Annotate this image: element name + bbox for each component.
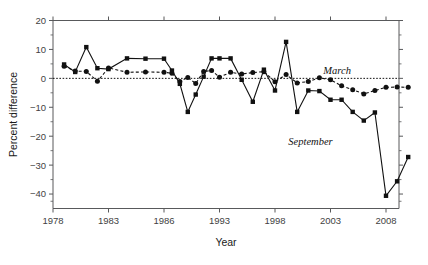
data-point (361, 91, 366, 96)
data-point (251, 100, 255, 104)
data-point (143, 69, 148, 74)
data-point (372, 88, 377, 93)
data-point (284, 40, 288, 44)
data-point (384, 85, 389, 90)
data-point (228, 56, 232, 60)
y-axis-ticks (49, 21, 403, 202)
series-label-march: March (322, 65, 351, 76)
data-point (125, 70, 130, 75)
data-point (395, 85, 400, 90)
y-tick-label: −30 (30, 160, 46, 171)
x-tick-labels: 1978198319861993199820032008 (42, 215, 396, 226)
y-tick-label: 0 (41, 73, 46, 84)
data-point (162, 70, 167, 75)
data-point (162, 56, 166, 60)
data-point (106, 67, 110, 71)
data-point (406, 85, 411, 90)
data-point (217, 75, 222, 80)
data-point (143, 56, 147, 60)
data-point (193, 81, 198, 86)
data-point (328, 77, 333, 82)
data-point (240, 78, 244, 82)
x-tick-label: 2003 (320, 215, 341, 226)
data-point (62, 62, 66, 66)
data-point (339, 83, 344, 88)
y-tick-label: −20 (30, 131, 46, 142)
data-point (125, 56, 129, 60)
data-point (84, 45, 88, 49)
chart-figure: 20100−10−20−30−40 1978198319861993199820… (0, 0, 428, 265)
x-tick-label: 1993 (209, 215, 230, 226)
data-point (170, 68, 174, 72)
y-tick-label: 10 (35, 44, 46, 55)
data-point (328, 98, 332, 102)
data-point (384, 194, 388, 198)
x-tick-label: 1986 (153, 215, 174, 226)
data-point (186, 110, 190, 114)
x-tick-label: 1998 (264, 215, 285, 226)
data-point (194, 92, 198, 96)
data-point (339, 98, 343, 102)
data-point (295, 80, 300, 85)
data-point (306, 88, 310, 92)
data-point (306, 79, 311, 84)
chart-plot-area: 20100−10−20−30−40 1978198319861993199820… (0, 0, 428, 265)
y-tick-label: −10 (30, 102, 46, 113)
series-label-september: September (288, 136, 333, 147)
data-point (95, 66, 99, 70)
data-point (317, 89, 321, 93)
data-point (209, 56, 213, 60)
x-axis-title: Year (215, 236, 237, 248)
data-point (209, 68, 214, 73)
y-axis-title: Percent difference (7, 72, 19, 157)
data-point (201, 74, 205, 78)
data-point (185, 75, 190, 80)
data-point (228, 70, 233, 75)
data-point (395, 179, 399, 183)
x-tick-label: 1978 (42, 215, 63, 226)
data-point (84, 69, 89, 74)
data-point (351, 110, 355, 114)
data-point (178, 82, 182, 86)
axis-lines (53, 21, 399, 209)
x-axis-ticks (53, 17, 386, 213)
data-series-group (62, 40, 411, 198)
data-point (273, 88, 277, 92)
data-point (284, 72, 289, 77)
data-point (250, 70, 255, 75)
data-point (73, 70, 77, 74)
data-point (317, 75, 322, 80)
y-tick-label: 20 (35, 15, 46, 26)
series-september (62, 40, 411, 198)
y-tick-labels: 20100−10−20−30−40 (30, 15, 46, 200)
y-tick-label: −40 (30, 188, 46, 199)
data-point (295, 110, 299, 114)
x-tick-label: 1983 (98, 215, 119, 226)
data-point (406, 155, 410, 159)
data-point (217, 56, 221, 60)
data-point (373, 110, 377, 114)
data-point (95, 79, 100, 84)
data-point (362, 118, 366, 122)
data-point (350, 87, 355, 92)
data-point (262, 67, 266, 71)
x-tick-label: 2008 (375, 215, 396, 226)
